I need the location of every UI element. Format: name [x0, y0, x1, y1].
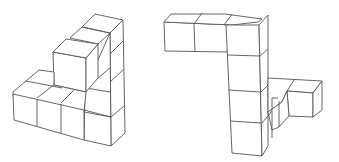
- branch-front: [287, 91, 313, 117]
- figure-left: [13, 14, 125, 146]
- diagram-canvas: Isometric line drawing of an L-shaped ar…: [0, 0, 339, 162]
- figure-right: [164, 13, 322, 156]
- top-row-front: [164, 22, 232, 52]
- cube-figures-svg: [0, 0, 339, 162]
- column-right-face: [110, 20, 125, 146]
